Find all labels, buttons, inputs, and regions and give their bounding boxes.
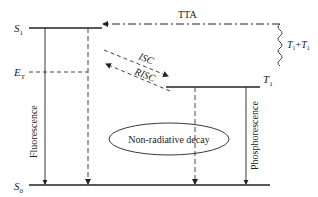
s0-level: S0 <box>14 180 270 195</box>
t1-level: T1 <box>166 73 273 88</box>
s1-level: S1 <box>14 22 102 37</box>
tta-arrow: TTA <box>103 9 280 24</box>
t1-label: T1 <box>263 73 273 88</box>
et-level: ET <box>13 66 88 81</box>
jablonski-diagram: S1 ET T1 S0 Fluorescence Phosphorescence… <box>0 0 318 197</box>
non-radiative-label: Non-radiative decay <box>128 134 209 145</box>
fluorescence-label: Fluorescence <box>28 105 39 158</box>
et-label: ET <box>13 66 26 81</box>
fluorescence-arrow: Fluorescence <box>28 28 45 184</box>
triplet-pair-wave: T1+T1 <box>278 24 310 66</box>
tta-label: TTA <box>178 9 197 20</box>
risc-arrow: RISC <box>106 64 170 91</box>
phosphorescence-arrow: Phosphorescence <box>246 87 260 184</box>
non-radiative-decay-ellipse: Non-radiative decay <box>109 123 229 155</box>
risc-label: RISC <box>132 65 157 84</box>
s1-label: S1 <box>14 22 24 37</box>
phosphorescence-label: Phosphorescence <box>249 101 260 170</box>
s0-label: S0 <box>14 180 24 195</box>
triplet-pair-label: T1+T1 <box>287 39 310 51</box>
